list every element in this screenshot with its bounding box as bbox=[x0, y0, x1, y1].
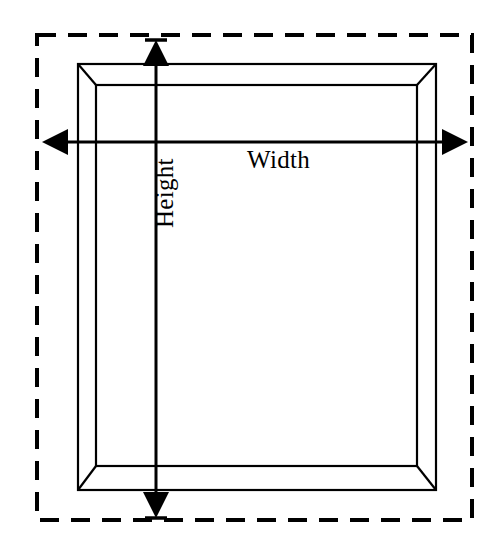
frame-outer-rectangle bbox=[78, 64, 436, 490]
diagram-canvas: Width Height bbox=[0, 0, 500, 559]
width-arrowhead-right-icon bbox=[442, 129, 468, 155]
overall-dashed-extent bbox=[37, 35, 472, 520]
bevel-bottom-left-icon bbox=[78, 466, 96, 490]
height-arrowhead-top-icon bbox=[143, 40, 169, 66]
height-dimension-arrow bbox=[143, 40, 169, 518]
bevel-bottom-right-icon bbox=[417, 466, 436, 490]
frame-dimension-diagram bbox=[0, 0, 500, 559]
height-label: Height bbox=[152, 158, 177, 228]
height-arrowhead-bottom-icon bbox=[143, 492, 169, 518]
width-arrowhead-left-icon bbox=[42, 129, 68, 155]
width-label: Width bbox=[247, 147, 310, 172]
bevel-top-left-icon bbox=[78, 64, 96, 85]
bevel-top-right-icon bbox=[417, 64, 436, 85]
